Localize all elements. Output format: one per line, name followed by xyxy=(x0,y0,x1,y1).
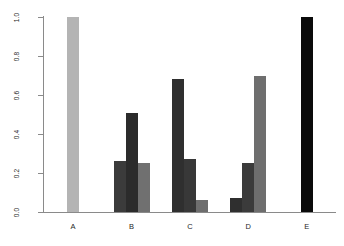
bar-e-0 xyxy=(301,17,313,212)
y-axis-tick-label-text: 0.4 xyxy=(14,129,21,138)
y-axis-tick-label-text: 0.8 xyxy=(14,51,21,60)
y-axis-tick xyxy=(38,134,43,135)
bar-d-2 xyxy=(254,76,266,213)
bar-b-1 xyxy=(126,113,138,212)
bar-d-0 xyxy=(230,198,242,212)
x-axis-line xyxy=(43,212,336,213)
y-axis-tick-label: 0.6 xyxy=(0,90,34,100)
bar-d-1 xyxy=(242,163,254,212)
bar-c-2 xyxy=(196,200,208,212)
y-axis-tick-label-text: 0.0 xyxy=(14,207,21,216)
y-axis-tick-label: 0.8 xyxy=(0,51,34,61)
y-axis-tick-label: 1.0 xyxy=(0,12,34,22)
bar-b-0 xyxy=(114,161,126,212)
y-axis-tick-label: 0.0 xyxy=(0,207,34,217)
x-axis-tick-label-c: C xyxy=(170,222,210,231)
y-axis-tick-label: 0.4 xyxy=(0,129,34,139)
y-axis-tick-label: 0.2 xyxy=(0,168,34,178)
y-axis-tick-label-text: 0.6 xyxy=(14,90,21,99)
x-axis-tick-label-b: B xyxy=(112,222,152,231)
x-axis-tick-label-a: A xyxy=(53,222,93,231)
bar-a-0 xyxy=(67,17,79,212)
y-axis-tick-label-text: 1.0 xyxy=(14,12,21,21)
bar-c-1 xyxy=(184,159,196,212)
y-axis-tick xyxy=(38,17,43,18)
bar-c-0 xyxy=(172,79,184,212)
y-axis-line xyxy=(43,16,44,212)
y-axis-tick-label-text: 0.2 xyxy=(14,168,21,177)
x-axis-tick-label-d: D xyxy=(228,222,268,231)
x-axis-tick-label-e: E xyxy=(287,222,327,231)
y-axis-tick xyxy=(38,56,43,57)
bar-b-2 xyxy=(138,163,150,212)
y-axis-tick xyxy=(38,173,43,174)
bar-chart: 0.00.20.40.60.81.0 ABCDE xyxy=(0,0,344,246)
y-axis-tick xyxy=(38,212,43,213)
y-axis-tick xyxy=(38,95,43,96)
